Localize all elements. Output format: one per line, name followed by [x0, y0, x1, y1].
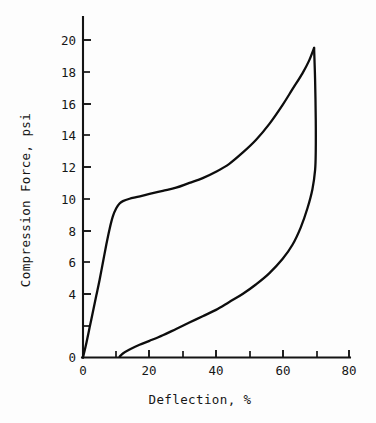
xtick-label-40: 40 [208, 363, 223, 378]
x-axis-title: Deflection, % [148, 392, 251, 407]
ytick-label-16: 16 [61, 97, 76, 112]
ytick-label-4: 4 [68, 287, 76, 302]
ytick-label-8: 8 [68, 224, 76, 239]
ytick-label-14: 14 [61, 128, 76, 143]
x-axis-ticks [116, 350, 349, 358]
xtick-label-0: 0 [79, 363, 87, 378]
ytick-label-10: 10 [61, 192, 76, 207]
ytick-label-6: 6 [68, 255, 76, 270]
xtick-label-20: 20 [141, 363, 156, 378]
xtick-label-60: 60 [275, 363, 290, 378]
y-axis-ticks [83, 40, 91, 326]
xtick-label-80: 80 [341, 363, 356, 378]
unloading-curve [120, 48, 316, 357]
ytick-label-12: 12 [61, 160, 76, 175]
ytick-label-20: 20 [61, 33, 76, 48]
ytick-label-0: 0 [68, 350, 76, 365]
ytick-label-18: 18 [61, 65, 76, 80]
chart-canvas: 20 18 16 14 12 10 8 6 4 0 0 20 40 60 80 … [0, 0, 376, 423]
loading-curve [83, 48, 314, 358]
y-axis-title: Compression Force, psi [18, 113, 33, 287]
compression-force-deflection-chart: 20 18 16 14 12 10 8 6 4 0 0 20 40 60 80 … [0, 0, 376, 423]
